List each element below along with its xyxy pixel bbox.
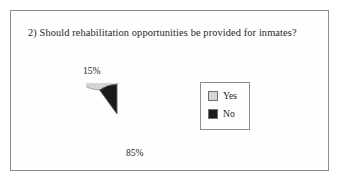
chart-legend: Yes No: [200, 82, 250, 130]
legend-swatch-no-icon: [208, 109, 218, 119]
pie-chart-svg: [86, 83, 148, 145]
pie-label-yes-percent: 85%: [126, 147, 144, 158]
question-title: 2) Should rehabilitation opportunities b…: [28, 26, 318, 39]
legend-label-no: No: [223, 108, 235, 119]
legend-item-no: No: [208, 108, 235, 119]
legend-label-yes: Yes: [223, 90, 237, 101]
pie-chart: 15% 85%: [70, 60, 180, 170]
legend-swatch-yes-icon: [208, 91, 218, 101]
pie-label-no-percent: 15%: [83, 65, 101, 76]
pie-slice-no: [100, 84, 117, 114]
legend-item-yes: Yes: [208, 90, 237, 101]
